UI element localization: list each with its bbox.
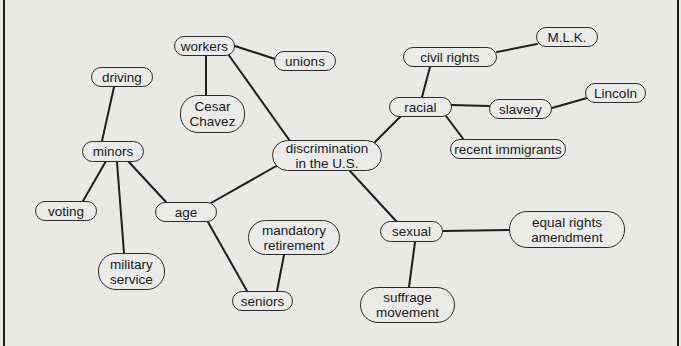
- node-racial: racial: [389, 97, 452, 117]
- edge-sexual-suffrage: [409, 242, 415, 287]
- node-mandatory-retirement: mandatory retirement: [248, 220, 340, 255]
- edge-civil-mlk: [497, 44, 537, 52]
- node-recent-immigrants: recent immigrants: [450, 139, 566, 159]
- node-sexual: sexual: [380, 221, 443, 242]
- node-seniors: seniors: [232, 291, 293, 311]
- edge-age-minors: [128, 161, 166, 202]
- edge-mandatory-seniors: [277, 255, 284, 291]
- node-lincoln: Lincoln: [585, 83, 646, 103]
- edge-racial-civil: [422, 67, 430, 97]
- edge-center-racial: [373, 116, 401, 144]
- node-mlk: M.L.K.: [536, 27, 598, 47]
- edge-minors-military: [117, 162, 124, 253]
- edge-center-sexual: [350, 171, 397, 222]
- edge-minors-voting: [83, 161, 106, 201]
- node-minors: minors: [82, 141, 144, 162]
- node-discrimination-in-the-us: discrimination in the U.S.: [272, 140, 382, 171]
- node-unions: unions: [274, 51, 336, 71]
- edge-racial-immigrants: [446, 116, 464, 140]
- edge-minors-driving: [102, 87, 114, 141]
- node-voting: voting: [35, 201, 97, 221]
- node-workers: workers: [174, 36, 235, 56]
- edge-racial-slavery: [452, 105, 489, 106]
- node-driving: driving: [91, 67, 153, 87]
- node-age: age: [155, 202, 217, 222]
- edge-workers-unions: [235, 46, 275, 59]
- node-cesar-chavez: Cesar Chavez: [180, 95, 245, 133]
- node-suffrage-movement: suffrage movement: [360, 287, 455, 323]
- edge-slavery-lincoln: [552, 98, 587, 108]
- edge-age-seniors: [208, 222, 247, 291]
- node-equal-rights-amendment: equal rights amendment: [509, 211, 625, 248]
- node-military-service: military service: [98, 253, 165, 290]
- edge-center-age: [211, 165, 278, 203]
- node-civil-rights: civil rights: [403, 47, 497, 67]
- edge-sexual-era: [443, 230, 509, 231]
- connector-lines: [0, 0, 681, 346]
- node-slavery: slavery: [489, 99, 552, 119]
